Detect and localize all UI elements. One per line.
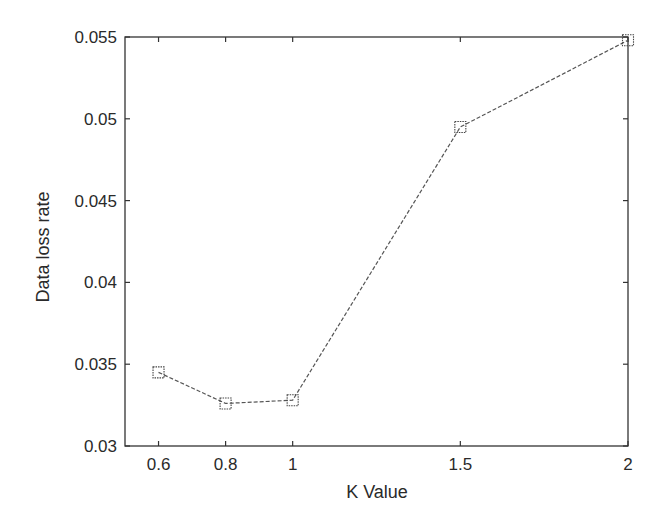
x-tick-label: 1 bbox=[288, 455, 297, 474]
plot-area bbox=[125, 37, 628, 446]
x-tick-label: 0.8 bbox=[214, 455, 238, 474]
y-tick-label: 0.03 bbox=[84, 437, 117, 456]
series-line bbox=[159, 40, 628, 403]
line-chart: 0.60.811.52 0.030.0350.040.0450.050.055 … bbox=[0, 0, 667, 523]
y-tick-label: 0.035 bbox=[74, 355, 117, 374]
square-marker bbox=[455, 121, 466, 132]
y-tick-label: 0.055 bbox=[74, 28, 117, 47]
y-axis-label: Data loss rate bbox=[33, 191, 53, 302]
data-series bbox=[153, 35, 633, 409]
x-axis-label: K Value bbox=[346, 482, 408, 502]
x-tick-label: 0.6 bbox=[147, 455, 171, 474]
y-tick-label: 0.045 bbox=[74, 192, 117, 211]
y-tick-label: 0.04 bbox=[84, 273, 117, 292]
y-axis: 0.030.0350.040.0450.050.055 bbox=[74, 28, 628, 456]
x-tick-label: 1.5 bbox=[449, 455, 473, 474]
y-tick-label: 0.05 bbox=[84, 110, 117, 129]
plot-border bbox=[125, 37, 628, 446]
x-tick-label: 2 bbox=[623, 455, 632, 474]
